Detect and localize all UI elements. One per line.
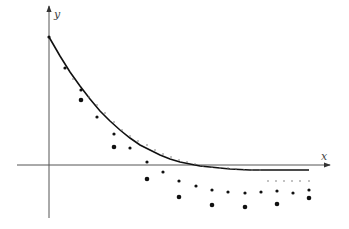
approximation-large-step-point [145, 177, 150, 182]
approximation-large-step-point [275, 202, 280, 207]
approximation-large-step-point [210, 203, 215, 208]
approximation-medium-step-point [194, 184, 197, 187]
approximation-small-step-point [154, 149, 156, 151]
approximation-small-step-point [202, 165, 204, 167]
approximation-small-step-point [162, 153, 164, 155]
approximation-small-step-point [104, 112, 106, 114]
approximation-small-step-point [299, 180, 301, 182]
approximation-medium-step-point [226, 190, 229, 193]
approximation-medium-step-point [291, 191, 294, 194]
approximation-small-step-point [96, 104, 98, 106]
approximation-small-step-point [275, 180, 277, 182]
approximation-small-step-point [259, 169, 261, 171]
approximation-small-step-point [235, 168, 237, 170]
approximation-medium-step-point [95, 115, 98, 118]
approximation-small-step-point [178, 159, 180, 161]
approximation-medium-step-point [63, 66, 66, 69]
approximation-large-step-point [307, 196, 312, 201]
approximation-medium-step-point [275, 189, 278, 192]
approximation-medium-step-point [47, 35, 50, 38]
approximation-small-step-point [72, 78, 74, 80]
approximation-medium-step-point [145, 160, 148, 163]
approximation-small-step-point [251, 169, 253, 171]
approximation-small-step-point [219, 167, 221, 169]
approximation-medium-step-point [112, 132, 115, 135]
chart: x y [0, 0, 349, 229]
approximation-small-step-point [194, 163, 196, 165]
approximation-small-step-point [88, 96, 90, 98]
approximation-large-step-point [79, 98, 84, 103]
approximation-medium-step-point [128, 146, 131, 149]
approximation-small-step-point [291, 180, 293, 182]
approximation-small-step-point [146, 144, 148, 146]
approximation-small-step-point [121, 129, 123, 131]
approximation-large-step-point [177, 195, 182, 200]
approximation-small-step-point [267, 180, 269, 182]
approximation-small-step-point [283, 180, 285, 182]
approximation-small-step-point [243, 169, 245, 171]
approximation-medium-step-point [243, 191, 246, 194]
approximation-small-step-point [113, 121, 115, 123]
approximation-large-step-point [112, 145, 117, 150]
approximation-medium-step-point [210, 188, 213, 191]
approximation-small-step-point [186, 161, 188, 163]
x-axis-label: x [321, 150, 328, 163]
approximation-small-step-point [170, 156, 172, 158]
approximation-medium-step-point [79, 88, 82, 91]
approximation-medium-step-point [161, 170, 164, 173]
approximation-small-step-point [308, 180, 310, 182]
approximation-medium-step-point [307, 188, 310, 191]
approximation-medium-step-point [177, 179, 180, 182]
y-axis-label: y [53, 8, 61, 21]
approximation-small-step-point [227, 167, 229, 169]
approximation-small-step-point [137, 140, 139, 142]
approximation-medium-step-point [259, 190, 262, 193]
approximation-large-step-point [243, 205, 248, 210]
approximation-small-step-point [211, 166, 213, 168]
exact-solution-curve [49, 37, 309, 170]
approximation-small-step-point [129, 135, 131, 137]
approximation-dots [47, 35, 311, 209]
